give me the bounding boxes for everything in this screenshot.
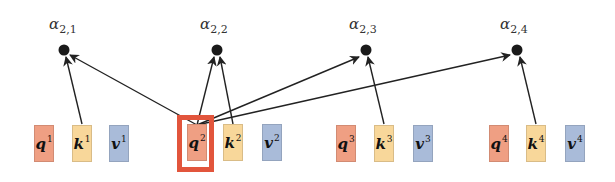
value-box-4: v4	[565, 125, 585, 162]
self-attention-diagram: α2,1 α2,2 α2,3 α2,4 q1 k1 v1 q2 k2 v2 q3…	[0, 0, 615, 182]
score-node-2-2	[212, 45, 223, 56]
score-label-2-1: α2,1	[49, 17, 77, 35]
score-label-2-2: α2,2	[200, 17, 228, 35]
value-box-2: v2	[262, 124, 282, 161]
key-box-2: k2	[223, 124, 243, 161]
query-box-3: q3	[336, 125, 356, 162]
key-box-1: k1	[72, 125, 92, 162]
score-node-2-4	[512, 45, 523, 56]
arrow-k4-to-alpha-2-4	[520, 57, 536, 124]
value-box-3: v3	[413, 125, 433, 162]
query-box-2: q2	[187, 124, 207, 161]
key-box-3: k3	[374, 125, 394, 162]
value-box-1: v1	[109, 125, 129, 162]
arrow-k3-to-alpha-2-3	[368, 57, 384, 124]
arrow-q2-to-alpha-2-4	[197, 55, 510, 125]
key-box-4: k4	[526, 125, 546, 162]
arrow-k1-to-alpha-2-1	[66, 57, 82, 124]
score-node-2-1	[59, 45, 70, 56]
query-box-1: q1	[34, 125, 54, 162]
score-label-2-4: α2,4	[500, 17, 528, 35]
score-label-2-3: α2,3	[349, 17, 377, 35]
score-node-2-3	[361, 45, 372, 56]
query-box-4: q4	[489, 125, 509, 162]
